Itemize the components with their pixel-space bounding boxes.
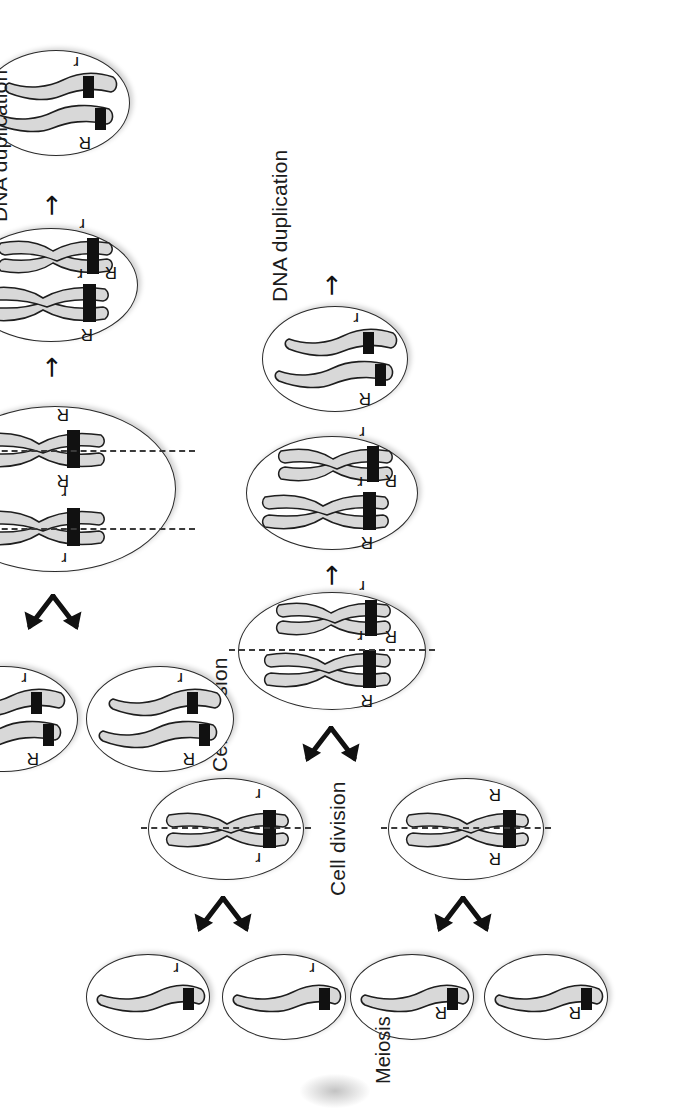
metaphase-plate-line-top (0, 528, 195, 530)
section-label-mitosis: Mitosis (0, 88, 1, 150)
split-arrow-mitosis (22, 594, 84, 640)
allele-label-R1: R (57, 472, 69, 489)
chromosome-pair-replicated (0, 229, 137, 341)
allele-label-R: R (27, 750, 39, 767)
mitosis-daughter-cell-2: R r (86, 666, 234, 772)
allele-label-R2: R (105, 264, 117, 281)
metaphase-plate-line-bottom (0, 450, 195, 452)
mitosis-parent-cell: R r (0, 50, 130, 156)
mitosis-duplicated-cell: R R r r (0, 228, 138, 342)
allele-label-R2: R (57, 406, 69, 423)
allele-label-r: r (21, 670, 27, 687)
mitosis-metaphase-cell: r r R R (0, 406, 176, 572)
label-dna-duplication-mitosis: DNA duplication (0, 70, 12, 222)
allele-label-r1: r (77, 266, 83, 283)
chromosome-pair-unreplicated (87, 667, 233, 771)
allele-label-r: r (73, 54, 79, 71)
arrow-right-1: → (38, 194, 64, 216)
arrow-right-2: → (38, 356, 64, 378)
allele-label-r: r (177, 670, 183, 687)
allele-label-R1: R (81, 326, 93, 343)
allele-label-r1: r (61, 550, 67, 567)
chromosomes-metaphase-plate (0, 407, 175, 571)
allele-label-r2: r (79, 216, 85, 233)
mitosis-daughter-cell-1: R r (0, 666, 78, 772)
allele-label-R: R (79, 134, 91, 151)
allele-label-R: R (183, 750, 195, 767)
chromosome-pair-unreplicated (0, 51, 129, 155)
